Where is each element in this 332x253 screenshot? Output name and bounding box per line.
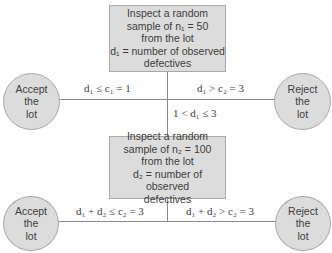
second-box-line-5: defectives xyxy=(144,193,191,206)
accept-1-line-2: the xyxy=(24,95,39,108)
accept-2-line-2: the xyxy=(24,217,39,230)
accept-1-line-1: Accept xyxy=(15,83,47,96)
first-sample-box: Inspect a random sample of n₁ = 50 from … xyxy=(109,5,226,72)
reject-2-line-3: lot xyxy=(297,230,308,243)
accept-1-line-3: lot xyxy=(26,108,37,121)
reject-2-line-2: the xyxy=(296,217,311,230)
second-box-line-4: d₂ = number of observed xyxy=(110,168,225,193)
accept-lot-circle-1: Accept the lot xyxy=(3,73,60,130)
edge-label-reject-1: d₁ > c₂ = 3 xyxy=(197,82,244,94)
edge-label-continue: 1 < d₁ ≤ 3 xyxy=(173,107,217,119)
edge-line-reject-2 xyxy=(167,221,276,222)
reject-lot-circle-1: Reject the lot xyxy=(274,73,331,130)
first-box-line-5: defectives xyxy=(144,57,191,70)
second-box-line-1: Inspect a random xyxy=(127,130,208,143)
first-box-line-3: from the lot xyxy=(141,32,194,45)
edge-line-accept-2 xyxy=(58,221,168,222)
edge-label-reject-2: d₁ + d₂ > c₂ = 3 xyxy=(186,205,254,217)
edge-line-continue xyxy=(167,72,168,136)
edge-line-accept-1 xyxy=(59,99,168,100)
accept-2-line-1: Accept xyxy=(15,205,47,218)
reject-1-line-1: Reject xyxy=(288,83,318,96)
accept-2-line-3: lot xyxy=(25,230,36,243)
edge-line-reject-1 xyxy=(167,99,275,100)
edge-label-accept-1: d₁ ≤ c₁ = 1 xyxy=(84,82,131,94)
accept-lot-circle-2: Accept the lot xyxy=(3,196,59,251)
first-box-line-4: d₁ = number of observed xyxy=(110,45,225,58)
reject-lot-circle-2: Reject the lot xyxy=(275,196,331,251)
second-box-line-3: from the lot xyxy=(141,155,194,168)
reject-2-line-1: Reject xyxy=(288,205,318,218)
second-box-line-2: sample of n₂ = 100 xyxy=(124,143,212,156)
reject-1-line-3: lot xyxy=(297,108,308,121)
first-box-line-2: sample of n₁ = 50 xyxy=(127,20,208,33)
edge-label-accept-2: d₁ + d₂ ≤ c₂ = 3 xyxy=(76,205,144,217)
second-sample-box: Inspect a random sample of n₂ = 100 from… xyxy=(109,136,226,199)
first-box-line-1: Inspect a random xyxy=(127,7,208,20)
reject-1-line-2: the xyxy=(295,95,310,108)
